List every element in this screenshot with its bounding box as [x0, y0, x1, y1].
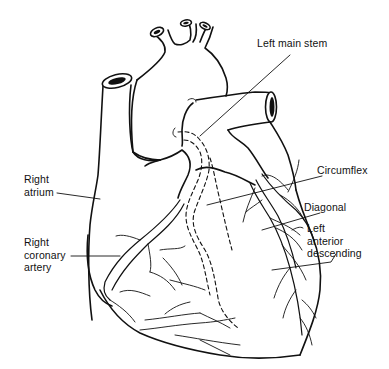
- heart-illustration: [0, 0, 389, 369]
- label-right-coronary-artery: Right coronary artery: [24, 236, 66, 274]
- label-right-atrium: Right atrium: [24, 173, 54, 198]
- circumflex-dashed-course: [173, 128, 238, 328]
- label-rca-line-2: coronary: [24, 249, 66, 262]
- label-right-atrium-line-2: atrium: [24, 186, 54, 199]
- label-rca-line-1: Right: [24, 236, 66, 249]
- label-circumflex: Circumflex: [317, 164, 368, 177]
- heart-diagram: Left main stem Circumflex Diagonal Left …: [0, 0, 389, 369]
- label-left-anterior-descending: Left anterior descending: [307, 222, 362, 260]
- label-right-atrium-line-1: Right: [24, 173, 54, 186]
- label-lad-line-3: descending: [307, 247, 362, 260]
- pulmonary-artery: [196, 92, 277, 130]
- left-coronary-vessels: [243, 160, 316, 345]
- label-diagonal: Diagonal: [304, 201, 346, 214]
- superior-vena-cava: [89, 71, 160, 320]
- label-left-main-stem: Left main stem: [257, 37, 327, 50]
- label-rca-line-3: artery: [24, 261, 66, 274]
- label-lad-line-2: anterior: [307, 235, 362, 248]
- label-lad-line-1: Left: [307, 222, 362, 235]
- right-coronary-artery-vessels: [104, 200, 240, 355]
